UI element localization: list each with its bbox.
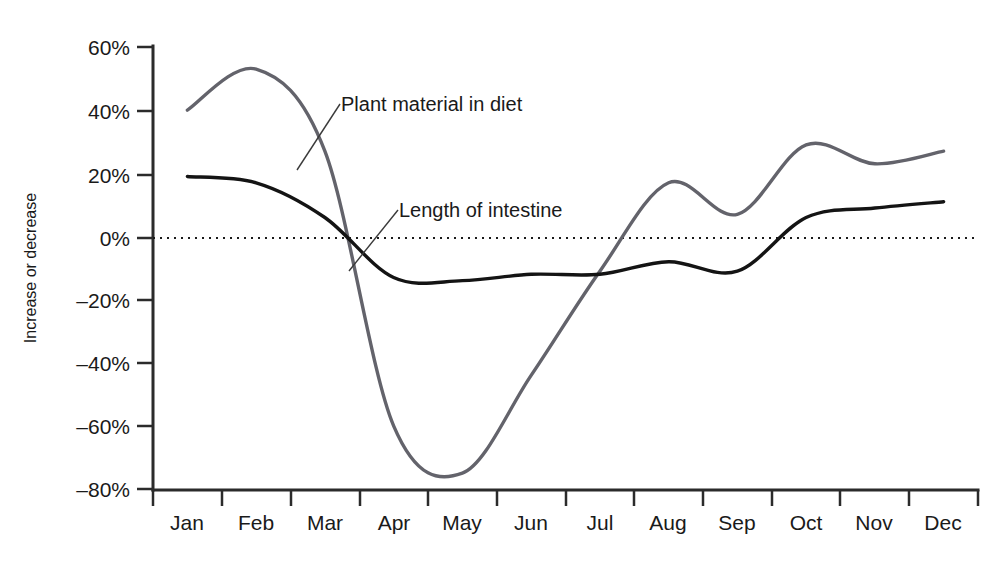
x-label-mar: Mar (307, 511, 343, 534)
y-tick-label-0: 0% (100, 227, 130, 250)
chart-container: 60% 40% 20% 0% –20% –40% –60% –80% Incre… (0, 0, 1000, 562)
series-line-length-of-intestine (187, 176, 943, 283)
series-line-plant-material (187, 68, 943, 477)
leader-line-plant-material (297, 104, 340, 170)
y-tick-label-60: 60% (88, 36, 130, 59)
x-axis-labels: Jan Feb Mar Apr May Jun Jul Aug Sep Oct … (170, 511, 962, 534)
x-label-apr: Apr (378, 511, 411, 534)
x-label-feb: Feb (238, 511, 274, 534)
y-axis-title: Increase or decrease (22, 193, 39, 343)
x-label-nov: Nov (855, 511, 893, 534)
x-label-sep: Sep (718, 511, 755, 534)
annotation-length-of-intestine: Length of intestine (399, 199, 562, 221)
y-tick-label-neg80: –80% (76, 478, 130, 501)
x-label-jul: Jul (587, 511, 614, 534)
y-tick-label-40: 40% (88, 100, 130, 123)
y-tick-label-neg60: –60% (76, 415, 130, 438)
y-tick-label-neg20: –20% (76, 289, 130, 312)
y-axis-ticks (137, 47, 153, 489)
y-tick-label-neg40: –40% (76, 352, 130, 375)
line-chart: 60% 40% 20% 0% –20% –40% –60% –80% Incre… (0, 0, 1000, 562)
x-label-aug: Aug (649, 511, 686, 534)
x-label-jun: Jun (514, 511, 548, 534)
annotation-plant-material: Plant material in diet (341, 93, 523, 115)
x-axis-ticks (153, 490, 978, 506)
x-label-may: May (442, 511, 482, 534)
x-label-jan: Jan (170, 511, 204, 534)
y-axis-labels: 60% 40% 20% 0% –20% –40% –60% –80% (76, 36, 130, 501)
x-label-dec: Dec (924, 511, 961, 534)
x-label-oct: Oct (790, 511, 823, 534)
y-tick-label-20: 20% (88, 164, 130, 187)
